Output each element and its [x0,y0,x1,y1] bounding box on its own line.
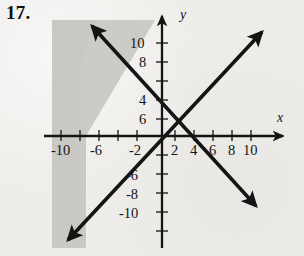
y-tick-label-2: 6 [139,111,146,127]
figure-root: 17. [0,0,304,256]
x-tick-label-10: 10 [243,142,258,158]
y-tick-label-neg8: -8 [126,186,138,202]
y-tick-label-8: 8 [139,54,146,70]
x-tick-label-2: 2 [171,142,178,158]
x-tick-label-neg2: -2 [129,142,141,158]
y-axis-label: y [178,7,187,22]
descending-line [92,26,256,206]
x-tick-label-neg6: -6 [90,142,102,158]
y-tick-label-neg10: -10 [119,205,138,221]
y-tick-label-neg6: -6 [126,167,138,183]
x-tick-label-neg10: -10 [51,142,70,158]
x-tick-label-4: 4 [190,142,198,158]
x-tick-label-8: 8 [228,142,235,158]
y-tick-label-10: 10 [130,35,145,51]
coordinate-plane-graph: y x -10 -6 -2 2 4 6 8 10 10 8 4 6 -6 -8 … [0,0,304,256]
y-tick-label-4: 4 [139,92,147,108]
x-axis-label: x [276,110,284,125]
x-tick-label-6: 6 [209,142,216,158]
